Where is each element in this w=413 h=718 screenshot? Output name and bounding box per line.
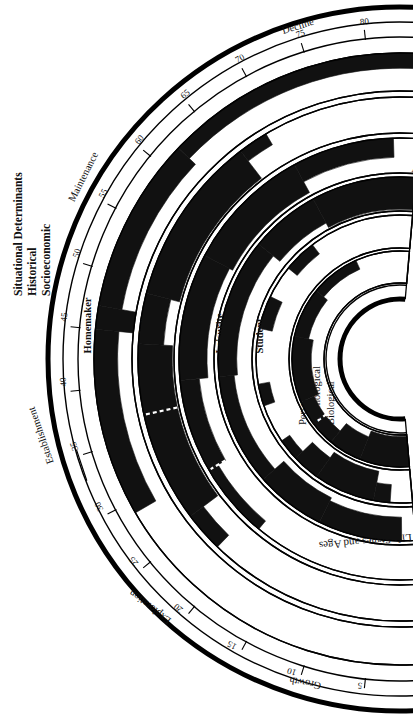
age-tick-label-5: 5 bbox=[357, 681, 363, 691]
situational-determinants-label: Situational Determinants bbox=[12, 172, 24, 296]
age-tick-label-80: 80 bbox=[359, 16, 369, 27]
personal-determinants-label: Personal Determinants bbox=[297, 330, 308, 425]
age-tick-75 bbox=[301, 43, 304, 53]
socioeconomic-label: Socioeconomic bbox=[40, 224, 52, 296]
age-tick-60 bbox=[143, 150, 151, 156]
age-tick-10 bbox=[301, 665, 304, 675]
age-tick-55 bbox=[108, 204, 117, 209]
biological-label: Biological bbox=[325, 381, 336, 425]
age-tick-30 bbox=[108, 509, 117, 514]
role-label-homemaker: Homemaker bbox=[82, 298, 93, 354]
age-tick-35 bbox=[83, 452, 93, 455]
role-label-student: Student bbox=[254, 318, 265, 353]
rainbow-canvas bbox=[0, 0, 413, 718]
role-label-citizen: Citizen bbox=[179, 321, 190, 353]
role-label-leisurite: Leisurite bbox=[214, 313, 225, 353]
rainbow-figure: HomemakerWorkerCitizenLeisuriteStudentCh… bbox=[0, 0, 413, 718]
role-label-worker: Worker bbox=[137, 319, 148, 354]
age-tick-25 bbox=[143, 562, 151, 568]
age-tick-50 bbox=[83, 264, 93, 267]
age-tick-label-45: 45 bbox=[58, 312, 69, 322]
psychological-label: Psychological bbox=[311, 366, 322, 425]
age-tick-70 bbox=[242, 68, 247, 77]
age-tick-65 bbox=[189, 104, 195, 112]
inner-boundary-arc bbox=[340, 299, 405, 419]
historical-label: Historical bbox=[26, 247, 38, 296]
age-tick-15 bbox=[242, 641, 247, 650]
age-tick-20 bbox=[189, 606, 195, 614]
age-tick-label-40: 40 bbox=[57, 377, 68, 387]
